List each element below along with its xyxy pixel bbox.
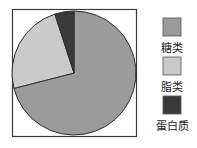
pie-slices <box>12 11 136 135</box>
legend-label: 脂类 <box>161 80 183 94</box>
legend-label: 蛋白质 <box>156 119 189 133</box>
pie-chart: 糖类脂类蛋白质 <box>0 0 197 148</box>
legend-label: 糖类 <box>161 41 183 55</box>
legend-swatch <box>163 57 181 75</box>
legend-swatch <box>163 96 181 114</box>
legend-swatch <box>163 18 181 36</box>
legend: 糖类脂类蛋白质 <box>156 18 189 133</box>
